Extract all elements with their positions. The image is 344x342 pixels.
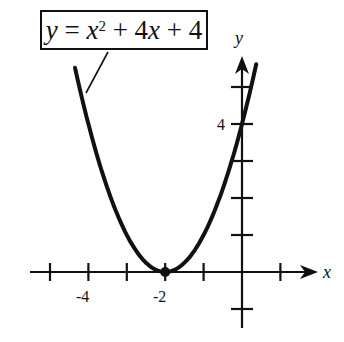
equation-equals: = (58, 15, 87, 46)
y-tick-label-4: 4 (217, 116, 225, 134)
equation-x: x (86, 15, 98, 46)
equation-term-4: + 4 (106, 15, 148, 46)
y-axis-label: y (235, 28, 243, 49)
x-tick-label-neg4: -4 (76, 288, 89, 306)
graph-canvas (0, 0, 344, 342)
x-axis-label: x (323, 262, 331, 283)
vertex-point (160, 267, 170, 277)
equation-exponent: 2 (98, 18, 106, 35)
equation-callout-box: y = x2 + 4x + 4 (40, 10, 208, 50)
parabola-graph: y = x2 + 4x + 4 y x -4 -2 4 (0, 0, 344, 342)
parabola-curve (75, 64, 256, 272)
equation-constant: + 4 (160, 15, 202, 46)
x-tick-label-neg2: -2 (153, 288, 166, 306)
equation-y: y (46, 15, 58, 46)
equation-x2: x (148, 15, 160, 46)
callout-leader-line (86, 52, 108, 93)
